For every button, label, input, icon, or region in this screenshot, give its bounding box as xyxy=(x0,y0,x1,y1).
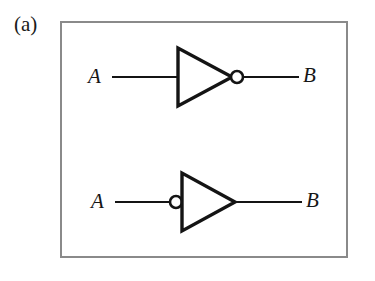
top-input-label: A xyxy=(88,66,101,87)
figure-panel-a: (a) A B A B xyxy=(0,0,375,281)
top-output-inversion-bubble[interactable] xyxy=(231,71,243,83)
top-output-label: B xyxy=(303,65,316,86)
panel-label: (a) xyxy=(14,14,37,35)
bottom-input-label: A xyxy=(91,191,104,212)
figure-border-box xyxy=(60,21,348,258)
bottom-input-inversion-bubble[interactable] xyxy=(170,196,182,208)
bottom-output-label: B xyxy=(306,190,319,211)
